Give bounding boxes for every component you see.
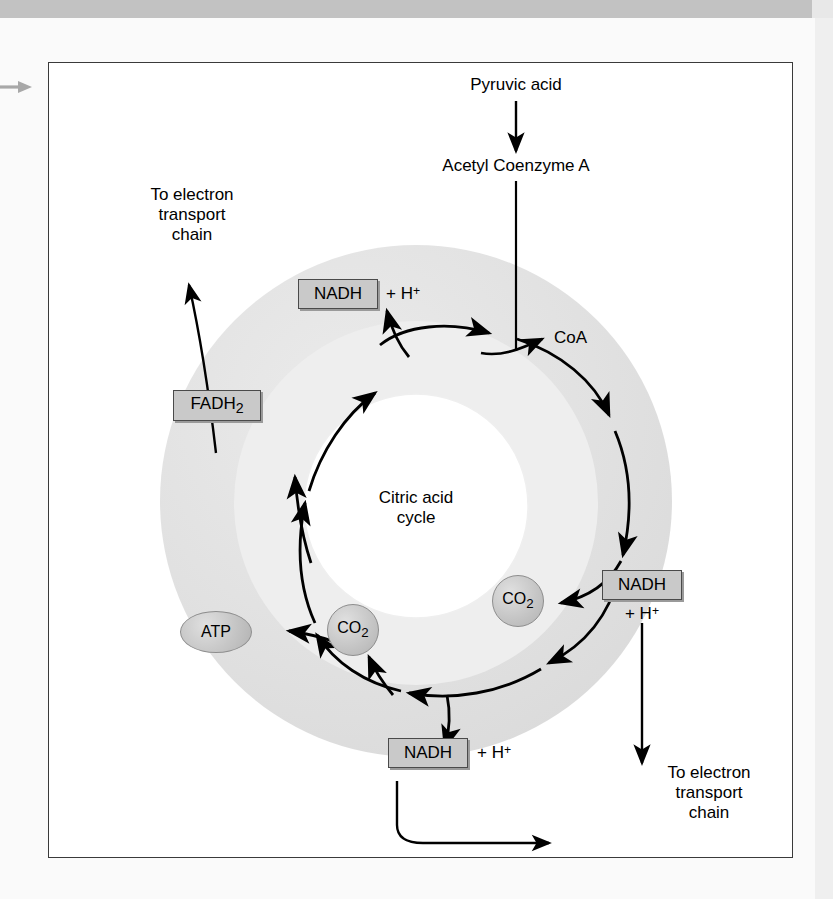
page-right-margin-strip bbox=[815, 18, 833, 899]
co2-left-label-text: CO bbox=[337, 619, 361, 636]
nadh-right-box[interactable]: NADH bbox=[602, 570, 682, 600]
left-etc-line2: transport bbox=[158, 205, 225, 224]
fadh2-box[interactable]: FADH2 bbox=[173, 390, 261, 421]
right-etc-line2: transport bbox=[675, 783, 742, 802]
atp-ellipse[interactable]: ATP bbox=[180, 611, 252, 653]
right-etc-destination-label: To electron transport chain bbox=[667, 763, 750, 823]
fadh2-box-label-sub: 2 bbox=[236, 401, 244, 417]
page-top-gray-band bbox=[0, 0, 812, 18]
right-etc-line3: chain bbox=[689, 803, 730, 822]
co2-left-label-sub: 2 bbox=[361, 626, 368, 641]
margin-pointer-arrow-icon bbox=[0, 78, 34, 96]
right-etc-line1: To electron bbox=[667, 763, 750, 782]
left-etc-destination-label: To electron transport chain bbox=[150, 185, 233, 245]
co2-right-label-text: CO bbox=[502, 590, 526, 607]
co2-right-label: CO2 bbox=[502, 590, 533, 611]
figure-frame-border: Pyruvic acid Acetyl Coenzyme A CoA To el… bbox=[48, 62, 793, 858]
page-canvas: Pyruvic acid Acetyl Coenzyme A CoA To el… bbox=[0, 0, 833, 899]
nadh-bottom-suffix-sup: + bbox=[504, 743, 511, 757]
left-etc-line3: chain bbox=[172, 225, 213, 244]
nadh-top-box[interactable]: NADH bbox=[298, 279, 378, 309]
nadh-right-suffix-text: + H bbox=[625, 604, 652, 623]
fadh2-box-label: FADH2 bbox=[190, 394, 243, 416]
nadh-bottom-suffix: + H+ bbox=[477, 743, 511, 763]
fadh2-box-label-text: FADH bbox=[190, 394, 235, 413]
atp-label: ATP bbox=[201, 623, 231, 641]
acetyl-coenzyme-a-label: Acetyl Coenzyme A bbox=[442, 156, 589, 176]
nadh-top-suffix-sup: + bbox=[413, 284, 420, 298]
nadh-bottom-box[interactable]: NADH bbox=[388, 738, 468, 768]
co2-right-circle[interactable]: CO2 bbox=[492, 575, 544, 627]
nadh-bottom-box-label: NADH bbox=[404, 743, 452, 763]
coa-label: CoA bbox=[554, 328, 587, 348]
co2-left-circle[interactable]: CO2 bbox=[327, 604, 379, 656]
nadh-top-suffix: + H+ bbox=[386, 284, 420, 304]
co2-left-label: CO2 bbox=[337, 619, 368, 640]
cycle-center-label: Citric acid cycle bbox=[379, 488, 454, 528]
left-etc-line1: To electron bbox=[150, 185, 233, 204]
nadh-bottom-to-etc-arrow bbox=[397, 781, 549, 843]
nadh-right-box-label: NADH bbox=[618, 575, 666, 595]
page-top-band-right-cap bbox=[812, 0, 833, 18]
cycle-center-line1: Citric acid bbox=[379, 488, 454, 507]
nadh-bottom-suffix-text: + H bbox=[477, 743, 504, 762]
nadh-top-suffix-text: + H bbox=[386, 284, 413, 303]
nadh-top-box-label: NADH bbox=[314, 284, 362, 304]
pyruvic-acid-label: Pyruvic acid bbox=[470, 75, 562, 95]
nadh-right-suffix-sup: + bbox=[652, 604, 659, 618]
nadh-right-suffix: + H+ bbox=[625, 604, 659, 624]
co2-right-label-sub: 2 bbox=[526, 597, 533, 612]
cycle-center-line2: cycle bbox=[397, 508, 436, 527]
